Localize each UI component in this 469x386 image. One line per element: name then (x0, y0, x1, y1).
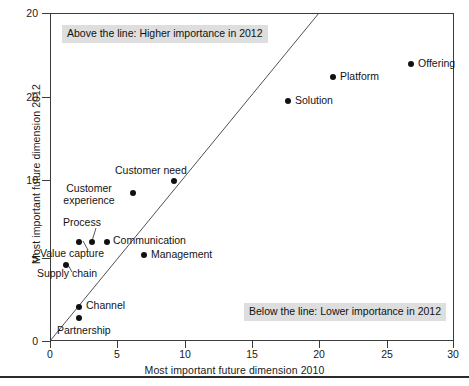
plot-area (50, 13, 454, 341)
x-tick-mark-0 (50, 341, 51, 348)
label-customer-need: Customer need (115, 165, 187, 177)
x-tick-label-10: 10 (170, 349, 200, 360)
label-value-capture: Value capture (40, 248, 104, 260)
x-tick-mark-30 (453, 341, 454, 348)
y-tick-label-5: 5 (6, 253, 38, 263)
label-channel: Channel (86, 300, 125, 312)
y-tick-label-20: 20 (6, 92, 38, 102)
scatter-chart-figure: Most important future dimension 2012 20 … (0, 0, 469, 386)
y-tick-mark-15 (42, 97, 50, 98)
above-line-note: Above the line: Higher importance in 201… (62, 25, 268, 43)
x-tick-label-0: 0 (35, 349, 65, 360)
x-tick-mark-25 (387, 341, 388, 348)
point-solution[interactable] (285, 98, 291, 104)
label-supply-chain: Supply chain (36, 268, 98, 280)
point-customer-experience[interactable] (130, 190, 136, 196)
x-tick-mark-15 (252, 341, 253, 348)
point-value-capture[interactable] (76, 239, 82, 245)
x-tick-mark-10 (185, 341, 186, 348)
y-tick-mark-0 (42, 341, 50, 342)
y-tick-mark-20 (42, 13, 50, 14)
y-tick-label-top: 20 (6, 8, 38, 18)
x-tick-label-25: 25 (372, 349, 402, 360)
point-offering-dot[interactable] (408, 61, 414, 67)
label-offering: Offering (418, 58, 455, 70)
y-tick-mark-10 (42, 180, 50, 181)
label-process: Process (63, 217, 101, 229)
x-tick-label-15: 15 (237, 349, 267, 360)
label-partnership: Partnership (57, 325, 111, 337)
point-partnership[interactable] (76, 315, 82, 321)
label-customer-experience: Customer experience (52, 183, 126, 206)
page-margin (0, 379, 469, 386)
label-solution: Solution (295, 95, 333, 107)
below-line-note: Below the line: Lower importance in 2012 (244, 303, 446, 321)
point-platform[interactable] (330, 74, 336, 80)
point-channel[interactable] (76, 304, 82, 310)
y-tick-label-0: 0 (6, 336, 38, 346)
point-customer-need[interactable] (171, 178, 177, 184)
x-axis-title: Most important future dimension 2010 (0, 364, 469, 376)
point-communication[interactable] (104, 239, 110, 245)
x-tick-label-20: 20 (304, 349, 334, 360)
label-management: Management (151, 249, 212, 261)
label-platform: Platform (340, 71, 379, 83)
label-communication: Communication (113, 235, 186, 247)
y-tick-label-10: 10 (6, 175, 38, 185)
x-tick-label-5: 5 (102, 349, 132, 360)
page-divider-rule (0, 376, 469, 378)
point-management[interactable] (141, 252, 147, 258)
x-tick-label-30: 30 (438, 349, 468, 360)
point-process[interactable] (89, 239, 95, 245)
x-tick-mark-20 (319, 341, 320, 348)
x-tick-mark-5 (117, 341, 118, 348)
